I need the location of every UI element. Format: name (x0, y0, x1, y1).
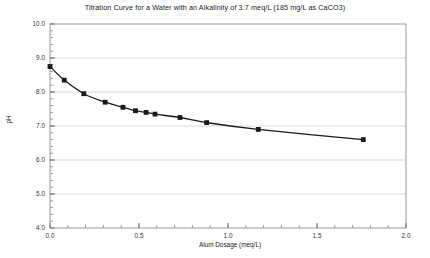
x-tick-label: 2.0 (391, 232, 421, 239)
y-tick-label: 5.0 (17, 190, 45, 197)
x-tick-label: 1.5 (302, 232, 332, 239)
y-tick-label: 9.0 (17, 54, 45, 61)
y-tick-label: 6.0 (17, 156, 45, 163)
y-tick-label: 10.0 (17, 20, 45, 27)
titration-chart: Titration Curve for a Water with an Alka… (0, 0, 430, 258)
x-tick-label: 0.0 (35, 232, 65, 239)
y-tick-label: 7.0 (17, 122, 45, 129)
plot-area (0, 0, 430, 258)
y-tick-label: 4.0 (17, 224, 45, 231)
x-tick-label: 1.0 (213, 232, 243, 239)
series-line (50, 67, 363, 140)
y-tick-label: 8.0 (17, 88, 45, 95)
x-tick-label: 0.5 (124, 232, 154, 239)
series-markers (48, 64, 366, 142)
